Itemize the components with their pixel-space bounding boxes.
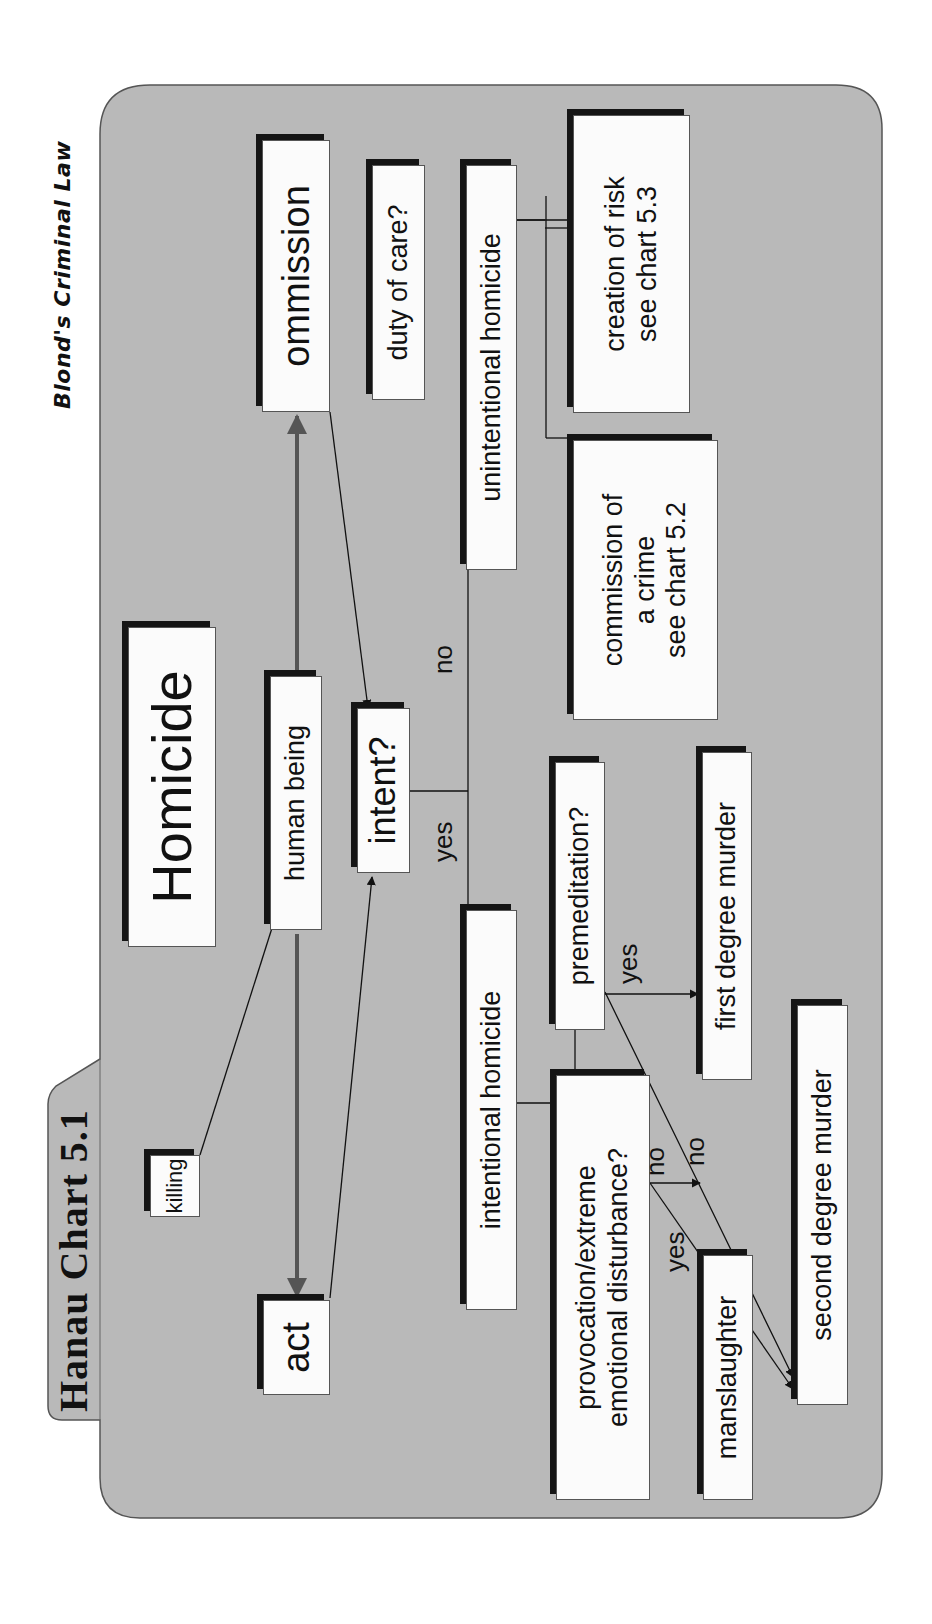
node-creation-of-risk: creation of risk see chart 5.3 — [573, 115, 690, 413]
node-commission-of-crime-label: commission of a crime see chart 5.2 — [598, 494, 694, 667]
node-commission-of-crime: commission of a crime see chart 5.2 — [573, 440, 718, 720]
node-second-degree-murder: second degree murder — [797, 1005, 848, 1405]
node-duty-of-care: duty of care? — [372, 165, 425, 400]
node-killing-label: killing — [162, 1158, 188, 1213]
node-homicide: Homicide — [128, 627, 216, 947]
node-intent: intent? — [357, 708, 410, 873]
node-unintentional-homicide: unintentional homicide — [466, 165, 517, 570]
node-creation-of-risk-label: creation of risk see chart 5.3 — [600, 176, 664, 352]
node-provocation-label: provocation/extreme emotional disturbanc… — [571, 1148, 635, 1427]
node-ommission-label: ommission — [274, 185, 319, 367]
edge-label-premeditation-no: no — [680, 1137, 711, 1166]
node-premeditation-label: premeditation? — [564, 807, 596, 986]
node-manslaughter-label: manslaughter — [712, 1296, 744, 1460]
node-premeditation: premeditation? — [555, 762, 605, 1030]
node-act: act — [263, 1300, 330, 1395]
node-ommission: ommission — [262, 140, 330, 412]
node-second-degree-murder-label: second degree murder — [807, 1069, 839, 1341]
node-intentional-homicide: intentional homicide — [466, 910, 517, 1310]
node-act-label: act — [274, 1322, 319, 1373]
edge-label-provocation-no: no — [640, 1147, 671, 1176]
node-homicide-label: Homicide — [139, 670, 205, 903]
chart-canvas: Hanau Chart 5.1 Blond's Criminal Law — [0, 0, 932, 1624]
node-killing: killing — [150, 1155, 200, 1217]
node-human-being: human being — [270, 676, 322, 930]
node-first-degree-murder: first degree murder — [702, 752, 752, 1080]
node-duty-of-care-label: duty of care? — [383, 204, 415, 360]
edge-label-intent-no: no — [428, 645, 459, 674]
node-first-degree-murder-label: first degree murder — [711, 802, 743, 1030]
edge-label-intent-yes: yes — [428, 822, 459, 862]
node-provocation: provocation/extreme emotional disturbanc… — [556, 1075, 650, 1500]
edge-label-provocation-yes: yes — [660, 1232, 691, 1272]
node-human-being-label: human being — [280, 725, 312, 881]
node-manslaughter: manslaughter — [703, 1255, 753, 1500]
node-intent-label: intent? — [362, 736, 404, 844]
node-intentional-homicide-label: intentional homicide — [476, 991, 508, 1230]
edge-label-premeditation-yes: yes — [613, 944, 644, 984]
node-unintentional-homicide-label: unintentional homicide — [476, 233, 508, 502]
